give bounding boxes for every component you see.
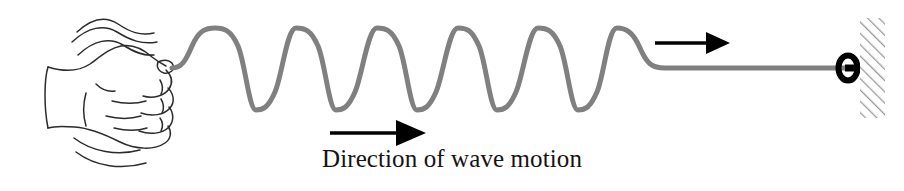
hand-fist [45, 46, 173, 149]
arrow-upper-direction [655, 32, 730, 54]
arrow-wave-motion [330, 120, 426, 146]
hand-motion-lines-above [72, 19, 157, 55]
wall-hatched [860, 18, 885, 118]
rope-wave [172, 28, 845, 110]
caption-direction-of-wave-motion: Direction of wave motion [0, 144, 904, 173]
wave-diagram-figure: Direction of wave motion [0, 0, 904, 191]
